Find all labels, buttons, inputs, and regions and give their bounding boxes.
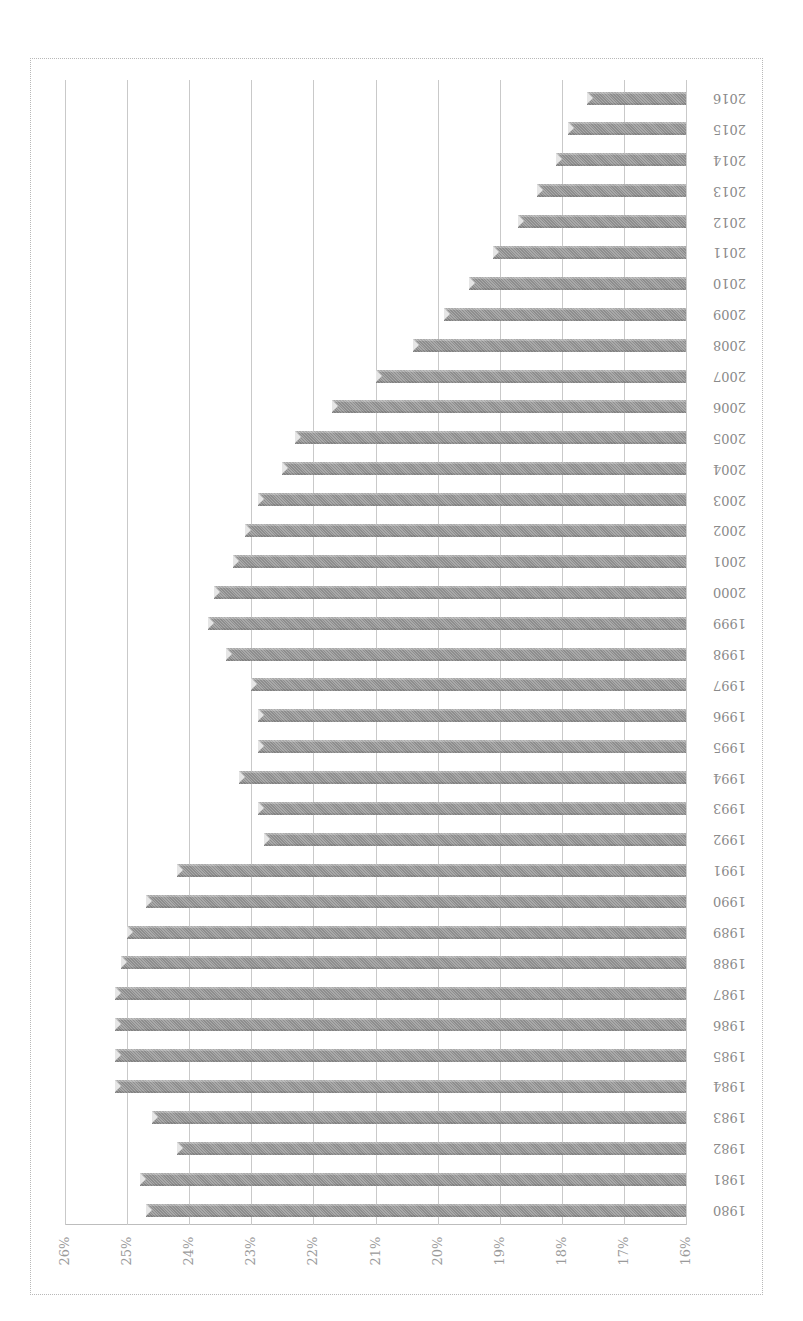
category-label-2006: 2006 (700, 399, 746, 415)
category-label-2004: 2004 (700, 461, 746, 477)
gridline (65, 80, 66, 1225)
bar-2013 (537, 184, 686, 197)
bar-1990 (146, 895, 686, 908)
tick-label-24pct: 24% (181, 1229, 197, 1273)
category-label-2003: 2003 (700, 492, 746, 508)
bar-1995 (258, 740, 686, 753)
tick-label-26pct: 26% (57, 1229, 73, 1273)
category-label-1985: 1985 (700, 1048, 746, 1064)
bar-2006 (332, 400, 686, 413)
tick-label-21pct: 21% (368, 1229, 384, 1273)
bar-1993 (258, 802, 686, 815)
plot-area (65, 80, 686, 1225)
category-label-2015: 2015 (700, 121, 746, 137)
category-label-2007: 2007 (700, 368, 746, 384)
category-label-1996: 1996 (700, 708, 746, 724)
bar-2004 (282, 462, 686, 475)
category-label-1988: 1988 (700, 955, 746, 971)
bar-2005 (295, 431, 686, 444)
category-label-1999: 1999 (700, 615, 746, 631)
category-label-2001: 2001 (700, 553, 746, 569)
category-label-1994: 1994 (700, 770, 746, 786)
category-label-1992: 1992 (700, 831, 746, 847)
category-label-2009: 2009 (700, 306, 746, 322)
category-label-2008: 2008 (700, 337, 746, 353)
bar-2009 (444, 308, 686, 321)
bar-2011 (493, 246, 686, 259)
bar-1988 (121, 956, 686, 969)
category-label-1990: 1990 (700, 893, 746, 909)
bar-2002 (245, 524, 686, 537)
bar-2016 (587, 92, 686, 105)
tick-label-25pct: 25% (119, 1229, 135, 1273)
category-label-2010: 2010 (700, 275, 746, 291)
category-label-1997: 1997 (700, 677, 746, 693)
bar-1994 (239, 771, 686, 784)
category-label-2016: 2016 (700, 90, 746, 106)
bar-1983 (152, 1111, 686, 1124)
bar-1992 (264, 833, 686, 846)
category-label-2005: 2005 (700, 430, 746, 446)
bar-2014 (556, 153, 686, 166)
tick-label-22pct: 22% (305, 1229, 321, 1273)
category-label-1984: 1984 (700, 1078, 746, 1094)
tick-label-18pct: 18% (554, 1229, 570, 1273)
bar-2010 (469, 277, 686, 290)
category-label-1998: 1998 (700, 646, 746, 662)
bar-1985 (115, 1049, 686, 1062)
bar-1982 (177, 1142, 686, 1155)
category-label-2011: 2011 (700, 244, 746, 260)
bar-2001 (233, 555, 686, 568)
category-label-2012: 2012 (700, 214, 746, 230)
category-label-1991: 1991 (700, 862, 746, 878)
bar-1991 (177, 864, 686, 877)
bar-1996 (258, 709, 686, 722)
bar-1989 (127, 926, 686, 939)
bar-1980 (146, 1204, 686, 1217)
category-label-1987: 1987 (700, 986, 746, 1002)
bar-2008 (413, 339, 686, 352)
bar-2007 (376, 370, 687, 383)
category-label-1983: 1983 (700, 1109, 746, 1125)
category-label-1981: 1981 (700, 1171, 746, 1187)
bar-1987 (115, 987, 686, 1000)
category-label-2014: 2014 (700, 152, 746, 168)
category-label-1993: 1993 (700, 800, 746, 816)
bar-1997 (251, 678, 686, 691)
bar-2000 (214, 586, 686, 599)
bar-1986 (115, 1018, 686, 1031)
tick-label-16pct: 16% (678, 1229, 694, 1273)
bar-1981 (140, 1173, 686, 1186)
bar-1999 (208, 617, 686, 630)
bar-1984 (115, 1080, 686, 1093)
category-label-2000: 2000 (700, 584, 746, 600)
bar-2003 (258, 493, 686, 506)
bar-2012 (518, 215, 686, 228)
tick-label-17pct: 17% (616, 1229, 632, 1273)
gridline (686, 80, 687, 1225)
bar-2015 (568, 122, 686, 135)
category-label-1986: 1986 (700, 1017, 746, 1033)
tick-label-23pct: 23% (243, 1229, 259, 1273)
tick-label-19pct: 19% (492, 1229, 508, 1273)
category-label-1989: 1989 (700, 924, 746, 940)
category-label-1980: 1980 (700, 1202, 746, 1218)
category-label-2013: 2013 (700, 183, 746, 199)
category-label-1995: 1995 (700, 739, 746, 755)
category-label-2002: 2002 (700, 522, 746, 538)
category-label-1982: 1982 (700, 1140, 746, 1156)
bar-1998 (226, 648, 686, 661)
tick-label-20pct: 20% (430, 1229, 446, 1273)
